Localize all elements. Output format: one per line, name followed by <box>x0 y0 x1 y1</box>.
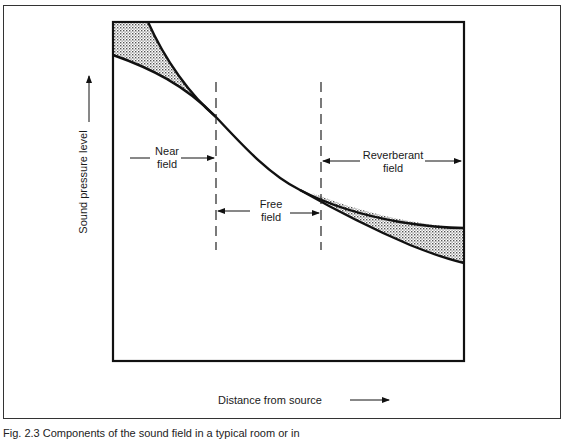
near-field-label-line2: field <box>152 158 182 171</box>
reverberant-field-label: Reverberant field <box>360 149 426 175</box>
free-field-label-line1: Free <box>252 198 290 211</box>
free-field-label-line2: field <box>252 211 290 224</box>
near-field-label: Near field <box>152 145 182 171</box>
free-field-label: Free field <box>252 198 290 224</box>
reverberant-field-label-line2: field <box>360 162 426 175</box>
y-axis-label: Sound pressure level <box>77 130 89 233</box>
near-field-label-line1: Near <box>152 145 182 158</box>
x-axis-label: Distance from source <box>218 394 322 406</box>
figure-caption: Fig. 2.3 Components of the sound field i… <box>3 427 300 439</box>
reverberant-field-label-line1: Reverberant <box>360 149 426 162</box>
